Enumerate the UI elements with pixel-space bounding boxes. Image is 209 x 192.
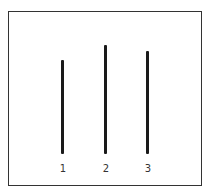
line-3: [146, 51, 149, 154]
line-2-label: 2: [103, 163, 109, 174]
line-1: [61, 60, 64, 154]
line-1-label: 1: [60, 163, 66, 174]
line-3-label: 3: [145, 163, 151, 174]
line-2: [104, 45, 107, 154]
